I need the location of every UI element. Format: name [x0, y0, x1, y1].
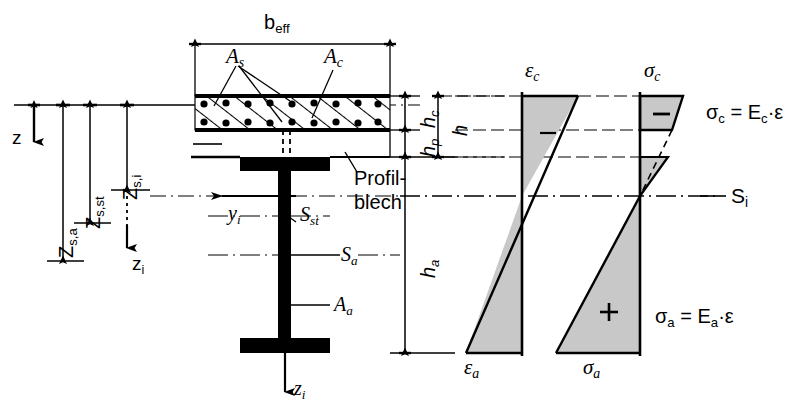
label-axis-z-i-left: zi: [132, 254, 144, 276]
label-h-c: hc: [418, 110, 441, 128]
label-a-c: Ac: [324, 46, 343, 70]
label-s-a: Sa: [341, 244, 358, 267]
label-h-p: hp: [418, 139, 441, 157]
concrete-slab: [189, 39, 396, 131]
profile-axis-lines: [150, 196, 400, 392]
label-axis-z-i-bottom: zi: [294, 378, 305, 401]
label-z-s-a: Zs,a: [56, 228, 79, 258]
dimension-h-p: [399, 130, 411, 160]
label-z-s-st: Zs,st: [83, 196, 106, 229]
diagram-vector-layer: [0, 0, 811, 417]
equation-sigma-steel: σa = Ea·ε: [655, 306, 734, 329]
dimension-b-eff: [189, 39, 396, 97]
label-sigma-a: σa: [583, 357, 600, 381]
label-sigma-c: σc: [644, 60, 661, 84]
label-axis-y-i: yi: [228, 203, 241, 226]
label-s-st: Sst: [300, 204, 319, 227]
label-z-s-i: Zs,i: [120, 175, 143, 200]
figure-canvas: beff As Ac z Zs,a Zs,st Zs,i zi hc hp h …: [0, 0, 811, 417]
label-neutral-axis-s-i: Si: [731, 185, 748, 210]
label-epsilon-c: εc: [525, 60, 539, 84]
equation-sigma-concrete: σc = Ec·ε: [706, 102, 783, 125]
dimension-h-c: [399, 91, 411, 134]
label-b-eff: beff: [264, 12, 290, 35]
label-epsilon-a: εa: [464, 357, 479, 381]
label-a-s: As: [226, 46, 244, 70]
label-profilblech-line1: Profil-: [354, 168, 406, 188]
label-a-a: Aa: [334, 294, 353, 317]
label-h-a: ha: [418, 260, 441, 278]
label-profilblech-line2: blech: [354, 192, 402, 212]
label-h: h: [450, 125, 470, 136]
axis-z-arrow: [28, 100, 40, 142]
label-axis-z: z: [12, 128, 22, 147]
